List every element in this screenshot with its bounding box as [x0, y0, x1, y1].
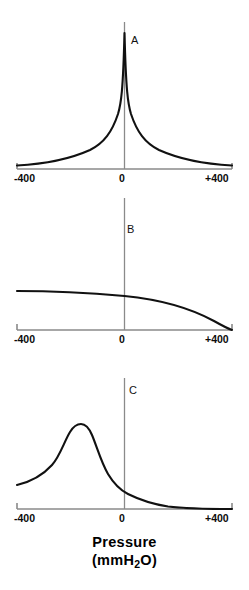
tick-label-c-right: +400 — [205, 512, 229, 524]
axis-title-subscript: 2 — [134, 558, 140, 570]
panel-label-c: C — [129, 384, 137, 396]
axis-title-units-post: O) — [140, 552, 157, 568]
figure-three-panel-pressure-plot: A -400 0 +400 B -400 0 +400 C -400 0 +40… — [0, 0, 249, 590]
tick-label-a-zero: 0 — [119, 172, 125, 184]
tick-label-b-left: -400 — [14, 333, 35, 345]
tick-label-a-left: -400 — [14, 172, 35, 184]
panel-a-plot — [0, 0, 249, 190]
panel-c-plot — [0, 360, 249, 520]
panel-b: B -400 0 +400 — [0, 190, 249, 360]
tick-label-b-right: +400 — [205, 333, 229, 345]
tick-label-c-left: -400 — [14, 512, 35, 524]
tick-label-c-zero: 0 — [119, 512, 125, 524]
tick-label-a-right: +400 — [205, 172, 229, 184]
panel-a: A -400 0 +400 — [0, 0, 249, 190]
axis-title-line2: (mmH2O) — [0, 551, 249, 570]
panel-label-b: B — [127, 223, 135, 235]
panel-c: C -400 0 +400 — [0, 360, 249, 520]
axis-title-units-pre: (mmH — [92, 552, 134, 568]
tick-label-b-zero: 0 — [119, 333, 125, 345]
panel-label-a: A — [131, 34, 139, 46]
x-axis-title: Pressure (mmH2O) — [0, 533, 249, 570]
axis-title-line1: Pressure — [92, 534, 156, 550]
